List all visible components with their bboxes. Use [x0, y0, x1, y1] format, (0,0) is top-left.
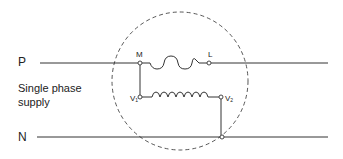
meter-boundary-circle	[112, 12, 248, 150]
v1-sub: 1	[135, 97, 138, 103]
supply-label-line1: Single phase	[18, 82, 82, 94]
node-v1-label: V1	[130, 93, 138, 106]
node-v2-label: V2	[225, 93, 233, 106]
node-l	[207, 61, 211, 65]
phase-label: P	[18, 56, 26, 68]
supply-label-line2: supply	[18, 96, 50, 108]
voltage-coil	[142, 92, 219, 97]
node-l-label: L	[208, 49, 212, 61]
current-coil	[142, 56, 207, 69]
node-v1	[138, 95, 142, 99]
node-m	[138, 61, 142, 65]
node-v2	[219, 95, 223, 99]
node-m-label: M	[136, 49, 143, 61]
neutral-label: N	[18, 131, 27, 143]
wattmeter-diagram	[0, 0, 343, 159]
node-neutral	[220, 135, 224, 139]
v2-sub: 2	[230, 97, 233, 103]
